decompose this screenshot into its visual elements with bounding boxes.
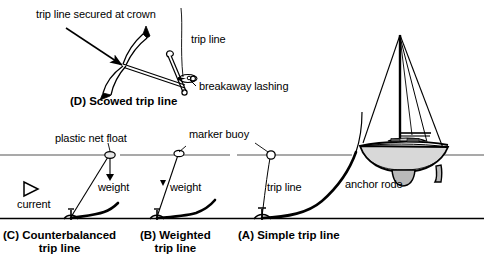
label-weight-b: weight — [170, 181, 201, 193]
label-trip-line-secured-at-crown: trip line secured at crown — [36, 8, 156, 20]
label-trip-line-a: trip line — [267, 181, 302, 193]
label-marker-buoy: marker buoy — [189, 128, 249, 140]
label-trip-line-top: trip line — [191, 33, 226, 45]
crown-pointer — [66, 28, 122, 65]
label-plastic-net-float: plastic net float — [55, 132, 127, 144]
weight-icon-b — [160, 180, 166, 186]
label-breakaway-lashing: breakaway lashing — [199, 80, 288, 92]
caption-d: (D) Scowed trip line — [70, 95, 177, 108]
leader-lines — [108, 143, 268, 152]
caption-a-line1: (A) Simple trip line — [238, 229, 340, 242]
caption-b-line2: trip line — [140, 242, 211, 255]
current-arrow-icon — [24, 182, 38, 196]
sailboat — [360, 35, 448, 186]
caption-b: (B) Weighted trip line — [140, 229, 211, 255]
caption-b-line1: (B) Weighted — [140, 229, 211, 242]
caption-d-line1: (D) Scowed trip line — [70, 95, 177, 108]
weight-icon-c — [106, 174, 114, 181]
label-current: current — [17, 198, 51, 210]
caption-c: (C) Counterbalanced trip line — [3, 229, 116, 255]
label-weight-c: weight — [98, 181, 129, 193]
marker-buoy-icon-b — [174, 150, 184, 156]
anchor-trip-line-diagram: trip line secured at crown trip line bre… — [0, 0, 484, 273]
panel-d-scowed-anchor — [100, 8, 197, 100]
caption-c-line2: trip line — [3, 242, 116, 255]
plastic-net-float-icon — [105, 152, 115, 159]
caption-c-line1: (C) Counterbalanced — [3, 229, 116, 242]
caption-a: (A) Simple trip line — [238, 229, 340, 242]
shackle-cluster — [178, 75, 197, 83]
label-anchor-rode: anchor rode — [345, 178, 403, 190]
panel-a-simple — [254, 112, 362, 220]
marker-buoy-icon-a — [267, 151, 275, 159]
